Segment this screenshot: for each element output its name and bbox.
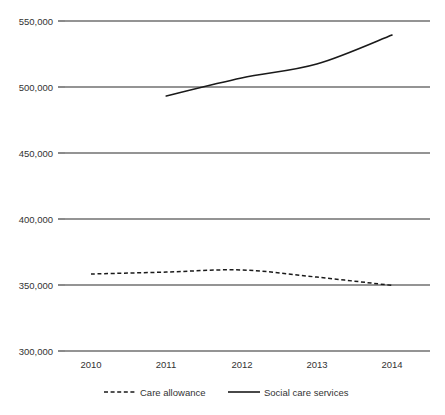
- x-axis-label-4: 2014: [381, 359, 402, 370]
- y-axis-label-4: 350,000: [19, 280, 53, 291]
- x-axis-label-2: 2012: [231, 359, 252, 370]
- y-axis-label-1: 500,000: [19, 82, 53, 93]
- legend-item-care-allowance[interactable]: Care allowance: [104, 387, 205, 398]
- y-axis-label-3: 400,000: [19, 214, 53, 225]
- y-axis-label-2: 450,000: [19, 148, 53, 159]
- chart-canvas: 550,000 500,000 450,000 400,000 350,000 …: [0, 0, 445, 415]
- series-line-care-allowance: [91, 270, 392, 286]
- x-axis-label-0: 2010: [80, 359, 101, 370]
- x-axis-label-1: 2011: [156, 359, 176, 370]
- legend-item-social-care-services[interactable]: Social care services: [228, 387, 349, 398]
- y-axis-label-0: 550,000: [19, 16, 53, 27]
- series-group: [91, 35, 392, 285]
- y-axis-ticks: [58, 21, 65, 351]
- y-axis-label-5: 300,000: [19, 346, 53, 357]
- x-axis-labels: 2010 2011 2012 2013 2014: [80, 359, 402, 370]
- legend-label-care-allowance: Care allowance: [140, 387, 205, 398]
- gridlines: [65, 21, 430, 351]
- chart-legend: Care allowance Social care services: [104, 387, 349, 398]
- line-chart: 550,000 500,000 450,000 400,000 350,000 …: [0, 0, 445, 415]
- y-axis-labels: 550,000 500,000 450,000 400,000 350,000 …: [19, 16, 53, 357]
- legend-label-social-care-services: Social care services: [264, 387, 349, 398]
- x-axis-label-3: 2013: [306, 359, 327, 370]
